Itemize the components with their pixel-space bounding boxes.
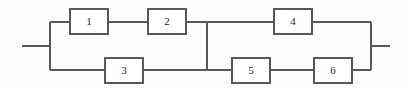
block-3-label: 3: [121, 64, 127, 76]
block-1[interactable]: 1: [70, 9, 108, 34]
block-4[interactable]: 4: [274, 9, 312, 34]
block-6-label: 6: [330, 64, 336, 76]
block-4-label: 4: [290, 15, 296, 27]
block-5-label: 5: [248, 64, 254, 76]
diagram-canvas: 1 2 3 4 5 6: [0, 0, 411, 94]
block-2[interactable]: 2: [148, 9, 186, 34]
block-2-label: 2: [164, 15, 170, 27]
block-1-label: 1: [86, 15, 92, 27]
block-3[interactable]: 3: [105, 58, 143, 83]
block-5[interactable]: 5: [232, 58, 270, 83]
block-6[interactable]: 6: [314, 58, 352, 83]
reliability-block-diagram: 1 2 3 4 5 6: [0, 0, 411, 94]
block-layer: 1 2 3 4 5 6: [70, 9, 352, 83]
